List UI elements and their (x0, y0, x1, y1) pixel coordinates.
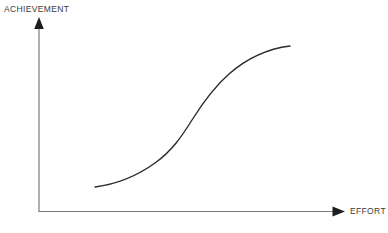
figure-canvas (0, 0, 388, 233)
achievement-effort-curve (95, 46, 290, 187)
figure-root: ACHIEVEMENT EFFORT (0, 0, 388, 233)
arrow-right-icon (333, 206, 346, 216)
y-axis-label: ACHIEVEMENT (4, 5, 69, 14)
arrow-up-icon (34, 17, 44, 29)
x-axis-label: EFFORT (350, 207, 386, 216)
